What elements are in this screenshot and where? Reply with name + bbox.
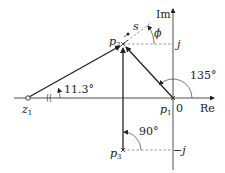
angle-label-z1: 11.3°	[64, 83, 94, 96]
phi-label: ϕ	[154, 27, 162, 40]
pos-j-label: j	[174, 38, 181, 51]
p3-label: p3	[110, 147, 122, 161]
real-axis-label: Re	[200, 102, 215, 115]
origin-label: 0	[176, 102, 183, 115]
s-small-arrow	[124, 34, 128, 37]
root-locus-diagram: Im Re 0 j −j s ϕ p2 p1 p3 z1 11.3° 135° …	[0, 0, 225, 173]
neg-j-label: −j	[173, 144, 186, 157]
imag-axis-label: Im	[156, 8, 171, 21]
angle-arc-z1	[59, 89, 61, 98]
p2-label: p2	[109, 35, 121, 49]
angle-label-p3: 90°	[139, 125, 159, 138]
p1-label: p1	[160, 103, 172, 117]
z1-label: z1	[21, 103, 32, 117]
s-label: s	[133, 20, 139, 33]
vector-p1-p2	[126, 47, 173, 98]
angle-label-p1: 135°	[190, 69, 217, 82]
z1-zero-marker	[26, 96, 30, 100]
